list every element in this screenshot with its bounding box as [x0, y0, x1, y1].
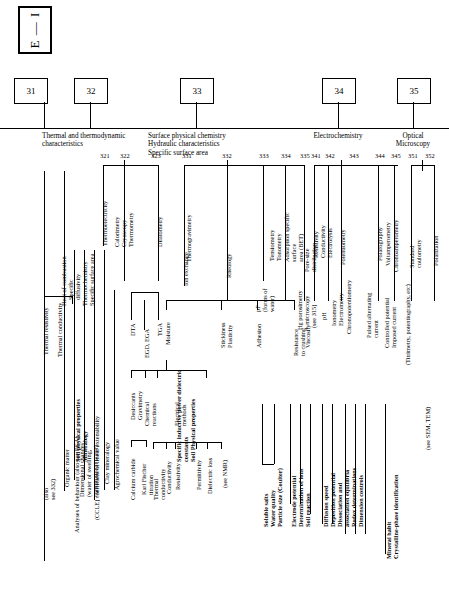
leaf-titrimetry: (Titrimetry, potentiography, etc): [404, 284, 411, 365]
bracket-35-m: [422, 160, 423, 171]
leaf-adhesion: Adhesion: [255, 324, 262, 348]
stem-31: [44, 171, 45, 561]
bracket-33-m: [227, 160, 228, 171]
node-box-33-label: 33: [193, 86, 202, 96]
subnum-342: 342: [325, 152, 335, 159]
tick-moisture-down: [166, 360, 167, 370]
bracket-33: [184, 165, 304, 166]
leaf-dilatometry: Dilatometry: [156, 217, 163, 247]
leaf-specific-surface-area: Specific surface area: [88, 254, 95, 306]
leaf-see-sem-tem: (see SEM, TEM): [424, 407, 431, 450]
group-soil-physical-properties-mineralogy: Soil physical properties Mineralogy: [74, 399, 88, 462]
bar-moisture-rheology: [166, 300, 294, 301]
subnum-333: 333: [259, 152, 269, 159]
corner-title-text: E — I: [27, 12, 43, 49]
node-box-35[interactable]: 35: [397, 78, 431, 104]
leaf-ph: pH: [320, 312, 327, 320]
level1-label-33: Surface physical chemistry Hydraulic cha…: [148, 132, 258, 157]
bracket-32: [103, 165, 158, 166]
tick-kf: [146, 440, 147, 447]
leaf-potentiometry: Potentiometry: [339, 229, 346, 265]
tick-chemical: [157, 370, 158, 378]
tick-see-nmr: [221, 442, 222, 449]
level1-label-34: Electrochemistry: [300, 132, 376, 140]
leaf-conductivity2: Conductivity: [165, 461, 172, 494]
connector-34: [338, 102, 339, 128]
bracket-thermal: [44, 296, 72, 297]
node-box-34[interactable]: 34: [322, 78, 356, 104]
tick-moisture: [166, 300, 167, 310]
leaf-resistivity2: Resistivity: [174, 463, 181, 490]
subnum-332: 332: [222, 152, 232, 159]
stem-organic-matter: [64, 171, 65, 491]
leaf-chronopotentiometry: Chronopotentiometry: [345, 280, 352, 334]
bracket-dta-l: [131, 292, 132, 300]
leaf-polarization: Polarization: [432, 236, 439, 266]
leaf-agrochemical-value: Agrochemical value: [113, 439, 120, 490]
bracket-soluble: [262, 464, 274, 465]
leaf-viscosity: Viscosity: [304, 325, 311, 348]
tick-resistance: [294, 300, 295, 310]
tick-conductivity2: [166, 442, 167, 449]
leaf-tga: TGA: [156, 323, 163, 336]
leaf-egd-ega: EGD, EGA: [143, 329, 150, 358]
stem-particle-size: [274, 404, 275, 464]
bracket-32-m: [124, 160, 125, 171]
bracket-thermal-l: [44, 296, 45, 304]
node-box-33[interactable]: 33: [180, 78, 214, 104]
tick-electrical: [206, 370, 207, 378]
leaf-permittivity: Permittivity: [195, 460, 202, 490]
tick-dielectric-loss: [207, 442, 208, 449]
leaf-also-see-332: (also see 332): [42, 479, 56, 500]
connector-31: [44, 102, 45, 128]
node-box-35-label: 35: [410, 86, 419, 96]
node-box-31-label: 31: [27, 86, 36, 96]
main-spine: [0, 128, 449, 129]
subnum-321: 321: [100, 152, 110, 159]
leaf-imposed-current: Imposed current: [390, 307, 397, 348]
leaf-polarography: Polarography: [376, 227, 383, 261]
leaf-see-nmr: (see NMR): [221, 460, 228, 488]
node-box-32-label: 32: [87, 86, 96, 96]
group-electrode-potential: Electrode potential Determination of ion…: [290, 469, 311, 527]
tick-cc: [131, 440, 132, 447]
leaf-rheology: Rheology: [225, 254, 232, 279]
bracket-dta-r: [158, 292, 159, 300]
node-box-32[interactable]: 32: [74, 78, 108, 104]
leaf-voltamperometry: Voltamperometry: [384, 222, 391, 266]
subnum-334: 334: [281, 152, 291, 159]
node-box-31[interactable]: 31: [14, 78, 48, 104]
leaf-thermal-resistivity: Thermal resistivity: [42, 307, 49, 355]
tick-stickiness: [221, 300, 222, 310]
leaf-chemical-reactions: Chemical reactions: [143, 402, 157, 426]
bracket-34: [314, 165, 398, 166]
level1-label-35: Optical Microscopy: [385, 132, 441, 149]
subnum-351: 351: [408, 152, 418, 159]
leaf-thermal-conductivity: Thermal conductivity: [56, 303, 63, 357]
connector-33: [196, 102, 197, 128]
corner-title-box: E — I: [18, 6, 52, 54]
stem-333: [263, 171, 264, 281]
leaf-adsorption-bet: Adsorption specific surface area (BET): [283, 213, 304, 263]
leaf-standard-coulometry: Standard coulometry: [408, 239, 422, 268]
leaf-calcium-carbide: Calcium carbide: [129, 459, 136, 500]
group-mineral-habit: Mineral habit Crystalline-phase identifi…: [385, 475, 399, 559]
subnum-335: 335: [300, 152, 310, 159]
leaf-dta: DTA: [129, 324, 136, 336]
subnum-345: 345: [391, 152, 401, 159]
leaf-electrolysis: Electrolysis: [326, 228, 333, 258]
leaf-tonometry: Tonometry: [275, 233, 282, 261]
stem-tga: [158, 300, 159, 320]
leaf-clay-mineralogy: Clay mineralogy: [103, 442, 110, 484]
leaf-electrometry: Electrometry: [337, 293, 344, 326]
subnum-343: 343: [349, 152, 359, 159]
subnum-344: 344: [375, 152, 385, 159]
stem-soluble-salts-grp: [262, 404, 263, 464]
leaf-dielectric-loss: Dielectric loss: [206, 458, 213, 494]
stem-egd: [144, 300, 145, 330]
stem-dta: [131, 300, 132, 320]
subnum-352: 352: [425, 152, 435, 159]
bracket-cc-kf: [131, 440, 146, 441]
bracket-thermal-r: [72, 296, 73, 304]
leaf-chronoamperometry: Chronoamperometry: [392, 220, 399, 272]
